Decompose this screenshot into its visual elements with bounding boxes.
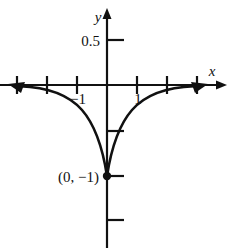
x-tick-label-1: 1 xyxy=(134,91,142,107)
curve-right-branch xyxy=(107,86,194,176)
y-axis-arrowhead xyxy=(103,8,112,19)
x-tick-label--1: −1 xyxy=(70,91,86,107)
y-tick-label-0.5: 0.5 xyxy=(81,33,100,49)
vertex-point-label: (0, −1) xyxy=(58,169,99,186)
x-axis-arrowhead xyxy=(216,81,227,90)
x-axis-label: x xyxy=(208,63,216,79)
curve-left-branch xyxy=(20,86,107,176)
curve-right-arrowhead xyxy=(191,82,208,93)
vertex-point-marker xyxy=(103,172,111,180)
y-axis-label: y xyxy=(93,9,102,25)
coordinate-plane-svg: x y 0.5 −1 1 (0, −1) xyxy=(0,0,228,248)
graph-figure: x y 0.5 −1 1 (0, −1) xyxy=(0,0,228,248)
y-axis-ticks xyxy=(107,40,124,220)
